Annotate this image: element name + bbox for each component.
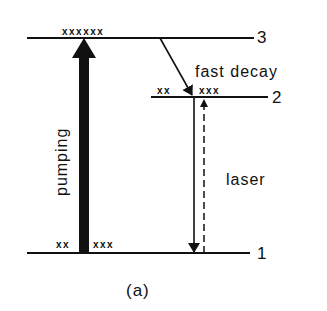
level-2-population-right: xxx (199, 86, 220, 96)
level-2-label: 2 (272, 89, 281, 106)
level-1-population-right: xxx (93, 240, 114, 250)
diagram-canvas (0, 0, 327, 311)
level-2-population-left: xx (157, 86, 171, 96)
level-1-label: 1 (257, 245, 266, 262)
pumping-label: pumping (54, 128, 70, 196)
level-3-label: 3 (257, 29, 266, 46)
level-1-population-left: xx (56, 240, 70, 250)
level-3-population: xxxxxx (62, 27, 104, 37)
laser-label: laser (226, 172, 266, 188)
fast-decay-label: fast decay (195, 64, 278, 80)
pumping-arrow (72, 38, 96, 253)
figure-caption: (a) (126, 282, 150, 299)
